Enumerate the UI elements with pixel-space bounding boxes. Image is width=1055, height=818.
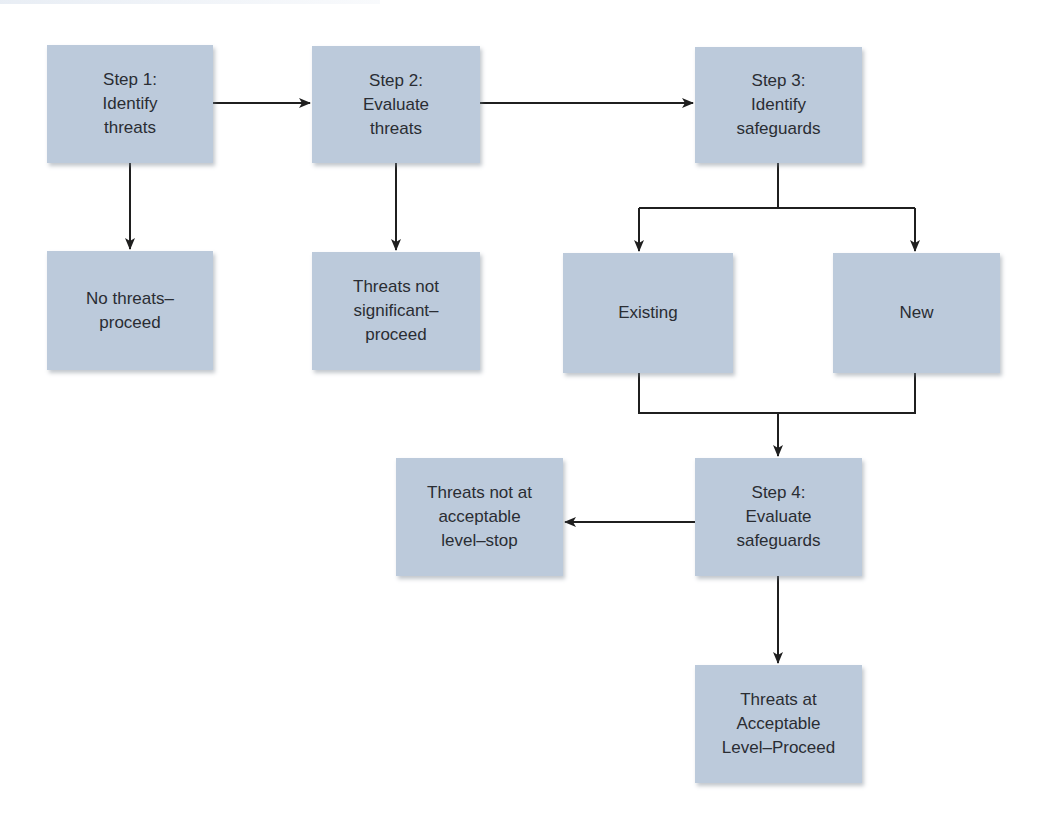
node-label: Threats not at acceptable level–stop <box>427 481 532 553</box>
node-label: Step 2: Evaluate threats <box>363 69 429 141</box>
node-label: New <box>899 301 933 325</box>
node-step2: Step 2: Evaluate threats <box>312 46 480 163</box>
node-new: New <box>833 253 1000 373</box>
node-label: Threats at Acceptable Level–Proceed <box>722 688 835 760</box>
node-step4: Step 4: Evaluate safeguards <box>695 458 862 576</box>
node-acceptable: Threats at Acceptable Level–Proceed <box>695 665 862 783</box>
node-label: Step 1: Identify threats <box>103 68 158 140</box>
connector-new-to-merge <box>778 373 915 413</box>
node-label: Existing <box>618 301 678 325</box>
node-label: No threats– proceed <box>86 287 174 335</box>
node-label: Threats not significant– proceed <box>353 275 439 347</box>
node-step1: Step 1: Identify threats <box>47 45 213 163</box>
node-label: Step 3: Identify safeguards <box>736 69 820 141</box>
node-not-acceptable: Threats not at acceptable level–stop <box>396 458 563 576</box>
node-label: Step 4: Evaluate safeguards <box>736 481 820 553</box>
node-no-threats: No threats– proceed <box>47 251 213 370</box>
node-step3: Step 3: Identify safeguards <box>695 47 862 163</box>
node-not-significant: Threats not significant– proceed <box>312 252 480 370</box>
node-existing: Existing <box>563 253 733 373</box>
connector-existing-to-merge <box>639 373 778 413</box>
